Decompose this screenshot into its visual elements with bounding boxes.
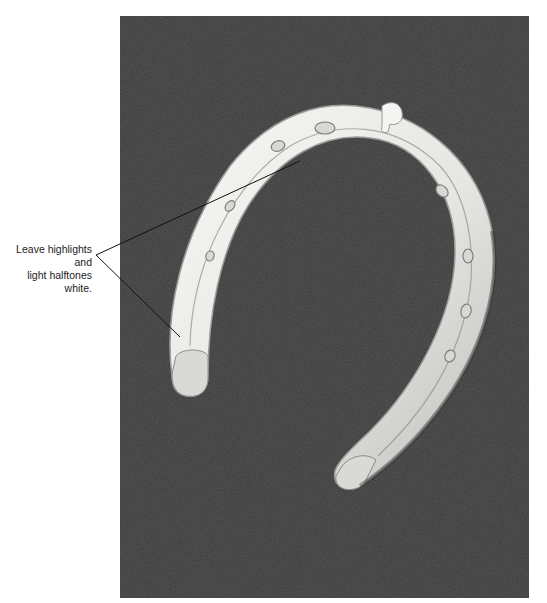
annotation-caption: Leave highlights and light halftones whi… xyxy=(0,243,92,295)
horseshoe-photo xyxy=(120,16,529,598)
caption-line-1: Leave highlights and xyxy=(0,243,92,269)
horseshoe-illustration xyxy=(120,16,529,598)
caption-line-2: light halftones white. xyxy=(0,269,92,295)
